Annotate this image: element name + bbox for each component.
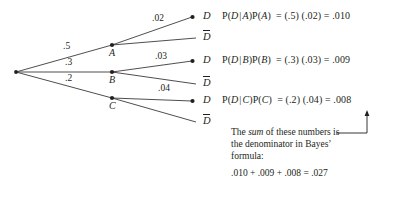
equation-b-prefix: P(	[222, 54, 231, 65]
outcome-dbar-c-text: D	[203, 116, 211, 127]
edge-b-to-dbar	[112, 72, 196, 84]
outcome-d-a: D	[203, 11, 211, 22]
edge-a-to-dbar	[112, 38, 196, 45]
node-label-a: A	[109, 48, 115, 58]
equation-b-factor-1: (.3)	[284, 54, 299, 65]
equation-c-factor-1: (.2)	[286, 94, 301, 105]
equation-b-end: )	[267, 54, 270, 65]
equation-a-factor-2: (.02)	[302, 10, 322, 21]
equation-c-event: C	[262, 94, 269, 105]
equation-b: P(D|B)P(B) = (.3) (.03) = .009	[222, 54, 350, 65]
denominator-note-line-1: The sum of these numbers is	[231, 126, 339, 138]
node-d-c	[190, 99, 194, 103]
denominator-note-line-3: formula:	[231, 150, 339, 162]
equation-c-end: )	[269, 94, 272, 105]
equation-b-close: )P(	[249, 54, 262, 65]
outcome-d-c: D	[203, 95, 211, 106]
denominator-note: The sum of these numbers is the denomina…	[231, 126, 339, 163]
equation-b-result: .009	[332, 54, 350, 65]
edge-b-to-d	[112, 61, 192, 72]
edge-c-to-dbar	[112, 98, 196, 122]
edge-c-to-d	[112, 98, 192, 101]
cond-prob-b: .03	[155, 52, 167, 62]
equation-c-result: .008	[333, 94, 351, 105]
equation-a-equals-1: =	[276, 10, 282, 21]
bayes-tree-figure: .5 .3 .2 .02 .03 .04 A B C D D D D D D P…	[0, 0, 399, 197]
equation-c-close: )P(	[249, 94, 262, 105]
equation-c-numerator: D	[231, 94, 238, 105]
edge-root-to-c	[16, 72, 112, 98]
equation-a-numerator: D	[231, 10, 238, 21]
node-root	[14, 70, 18, 74]
equation-a: P(D|A)P(A) = (.5) (.02) = .010	[222, 10, 350, 21]
outcome-dbar-c: D	[203, 116, 211, 127]
equation-b-numerator: D	[231, 54, 238, 65]
equation-a-equals-2: =	[324, 10, 330, 21]
node-d-b	[190, 59, 194, 63]
prior-prob-c: .2	[65, 74, 72, 84]
equation-a-prefix: P(	[222, 10, 231, 21]
equation-c-equals-1: =	[277, 94, 283, 105]
equation-a-close: )P(	[249, 10, 262, 21]
denominator-note-line-1a: The	[231, 127, 248, 137]
cond-prob-c: .04	[158, 84, 170, 94]
equation-a-end: )	[267, 10, 270, 21]
sum-pointer-arrow	[336, 110, 369, 133]
equation-b-equals-2: =	[324, 54, 330, 65]
equation-a-result: .010	[332, 10, 350, 21]
equation-c-equals-2: =	[325, 94, 331, 105]
denominator-note-line-1b: of these numbers is	[263, 127, 339, 137]
outcome-dbar-b-text: D	[203, 78, 211, 89]
node-label-b: B	[109, 75, 115, 85]
prior-prob-a: .5	[63, 42, 70, 52]
equation-c-factor-2: (.04)	[303, 94, 323, 105]
cond-prob-a: .02	[152, 14, 164, 24]
outcome-dbar-a: D	[203, 32, 211, 43]
outcome-dbar-a-text: D	[203, 32, 211, 43]
equation-c: P(D|C)P(C) = (.2) (.04) = .008	[222, 94, 351, 105]
node-label-c: C	[109, 101, 116, 111]
outcome-dbar-b: D	[203, 78, 211, 89]
prior-prob-b: .3	[65, 58, 72, 68]
equation-c-prefix: P(	[222, 94, 231, 105]
sum-total-line: .010 + .009 + .008 = .027	[231, 168, 328, 178]
equation-a-factor-1: (.5)	[284, 10, 299, 21]
node-d-a	[190, 15, 194, 19]
denominator-note-line-2: the denominator in Bayes’	[231, 138, 339, 150]
equation-b-factor-2: (.03)	[302, 54, 322, 65]
denominator-note-emphasis: sum	[248, 127, 263, 137]
outcome-d-b: D	[203, 55, 211, 66]
equation-b-equals-1: =	[276, 54, 282, 65]
